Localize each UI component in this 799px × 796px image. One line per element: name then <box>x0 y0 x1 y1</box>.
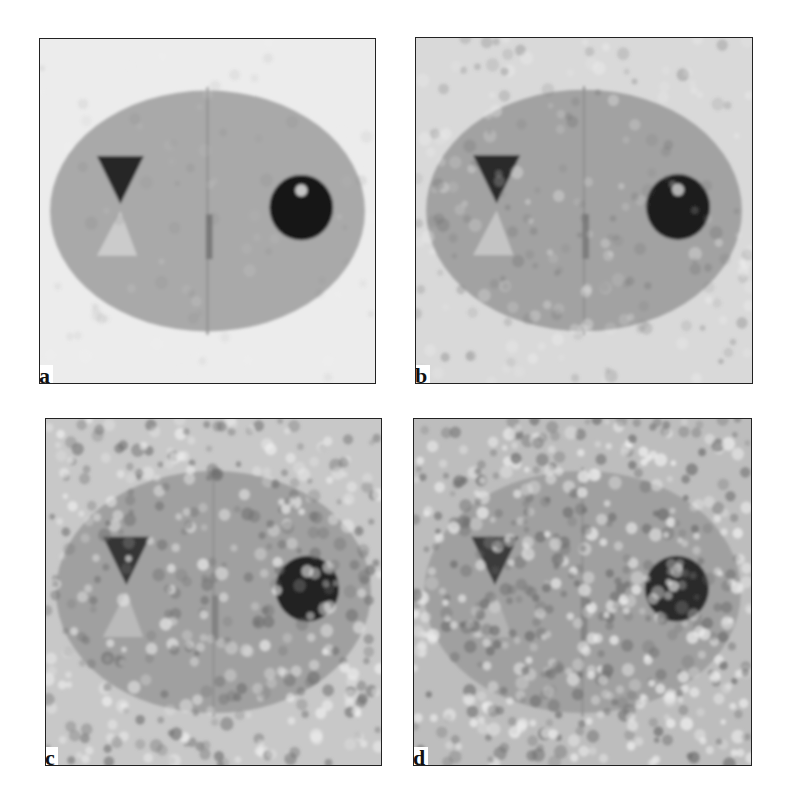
phantom-image <box>40 39 375 383</box>
image-panel-d: d <box>413 418 752 766</box>
panel-label: d <box>413 747 428 766</box>
hot-spot <box>295 184 307 196</box>
panel-label: b <box>415 365 430 384</box>
image-panel-c: c <box>45 418 382 766</box>
center-bar <box>212 595 219 640</box>
phantom-image <box>414 419 751 765</box>
image-panel-b: b <box>415 37 753 384</box>
panel-label: c <box>45 747 58 766</box>
image-panel-a: a <box>39 38 376 384</box>
phantom-image <box>416 38 752 383</box>
phantom-image <box>46 419 381 765</box>
panel-label: a <box>39 365 53 384</box>
